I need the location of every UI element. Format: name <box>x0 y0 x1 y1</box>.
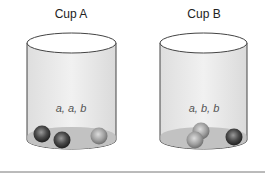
cup-a-contents-label: a, a, b <box>56 102 87 114</box>
ball-b-light-icon <box>187 132 204 149</box>
cup-b: Cup B a, b, b <box>160 7 247 149</box>
cup-b-contents-label: a, b, b <box>189 102 220 114</box>
cup-b-title: Cup B <box>187 7 220 21</box>
ball-b-light-icon <box>91 128 108 145</box>
two-cups-diagram: Cup A a, a, b Cup B a, b, b <box>0 0 265 175</box>
cup-a-title: Cup A <box>55 7 88 21</box>
ball-a-dark-icon <box>34 126 51 143</box>
cup-a: Cup A a, a, b <box>27 7 116 149</box>
ball-a-dark-icon <box>226 129 243 146</box>
ball-a-dark-icon <box>54 132 71 149</box>
